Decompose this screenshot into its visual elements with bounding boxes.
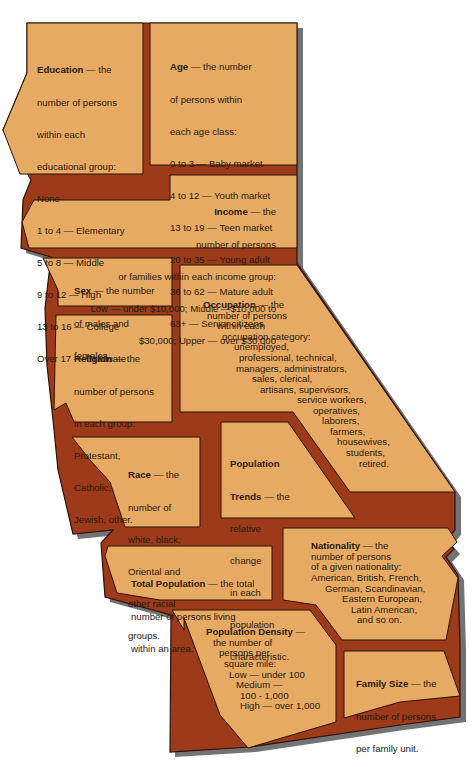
population-density-term: Population Density — [206, 626, 293, 637]
population-density-description: Population Density — the number of perso… — [0, 0, 475, 767]
family-size-term: Family Size — [356, 678, 408, 689]
family-size-description: Family Size — the number of persons per … — [356, 658, 437, 765]
